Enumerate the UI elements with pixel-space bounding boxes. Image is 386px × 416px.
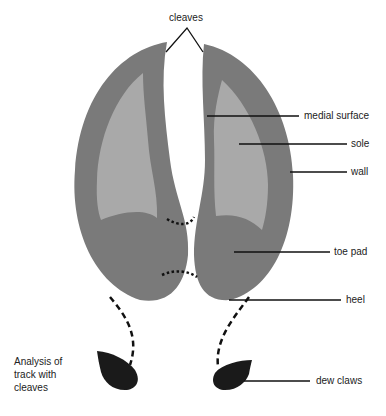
hoof-diagram bbox=[0, 0, 386, 416]
left-dew-claw bbox=[97, 351, 138, 390]
label-sole: sole bbox=[351, 138, 369, 150]
label-toe-pad: toe pad bbox=[334, 246, 367, 258]
caption-line-2: track with bbox=[14, 368, 62, 381]
label-wall: wall bbox=[351, 166, 368, 178]
caption-line-3: cleaves bbox=[14, 381, 62, 394]
left-dew-dash bbox=[110, 297, 133, 365]
diagram-caption: Analysis of track with cleaves bbox=[14, 355, 62, 394]
label-heel: heel bbox=[346, 294, 365, 306]
label-medial-surface: medial surface bbox=[304, 110, 369, 122]
right-dew-dash bbox=[218, 297, 249, 367]
right-dew-claw bbox=[213, 360, 252, 390]
label-dew-claws: dew claws bbox=[316, 375, 362, 387]
caption-line-1: Analysis of bbox=[14, 355, 62, 368]
cleaves-pointer bbox=[166, 28, 203, 52]
title-cleaves: cleaves bbox=[169, 12, 203, 24]
